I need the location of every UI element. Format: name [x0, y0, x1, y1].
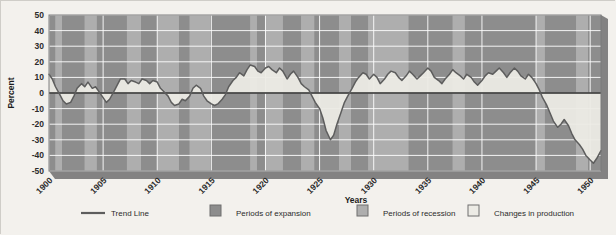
- y-tick-label: -20: [32, 119, 45, 129]
- legend-label: Trend Line: [111, 209, 150, 218]
- y-tick-label: 30: [35, 41, 45, 51]
- y-tick-label: 10: [35, 72, 45, 82]
- legend-label: Changes in production: [494, 209, 574, 218]
- y-tick-label: -30: [32, 135, 45, 145]
- y-tick-label: 20: [35, 57, 45, 67]
- legend-label: Periods of recession: [383, 209, 455, 218]
- y-tick-label: -10: [32, 104, 45, 114]
- y-tick-label: 50: [35, 10, 45, 20]
- y-axis-title: Percent: [6, 77, 16, 108]
- y-tick-label: -50: [32, 166, 45, 176]
- legend-label: Periods of expansion: [236, 209, 311, 218]
- y-tick-label: 40: [35, 26, 45, 36]
- y-tick-label: 0: [39, 88, 44, 98]
- x-axis-title: Years: [345, 195, 368, 205]
- y-tick-label: -40: [32, 150, 45, 160]
- chart-canvas: 50403020100-10-20-30-40-50 1900190519101…: [1, 1, 616, 235]
